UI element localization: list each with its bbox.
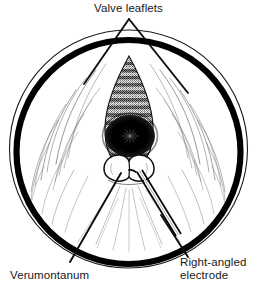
bladder-neck-lumen: [103, 113, 158, 159]
label-right-angled-electrode-line2: electrode: [180, 269, 246, 282]
figure-container: Valve leaflets Verumontanum Right-angled…: [0, 0, 257, 289]
illustration-svg: [0, 0, 257, 289]
label-verumontanum: Verumontanum: [10, 269, 89, 282]
label-right-angled-electrode-line1: Right-angled: [180, 256, 246, 269]
label-right-angled-electrode: Right-angledelectrode: [180, 256, 246, 282]
label-valve-leaflets: Valve leaflets: [0, 2, 257, 15]
